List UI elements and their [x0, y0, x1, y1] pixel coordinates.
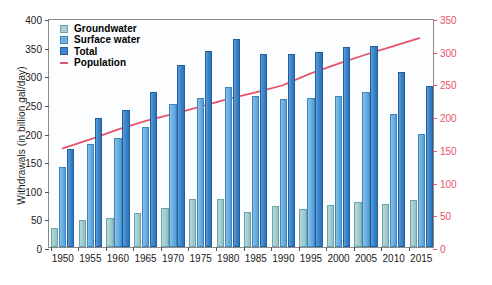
bar-total — [426, 86, 433, 247]
bar-surface-water — [335, 96, 342, 247]
bar-groundwater — [79, 220, 86, 247]
y-tick-label-left: 100 — [25, 186, 42, 197]
x-tick — [354, 247, 355, 251]
total-swatch-icon — [60, 47, 68, 55]
y-tick-left — [45, 192, 49, 193]
bar-groundwater — [327, 205, 334, 247]
bar-groundwater — [244, 212, 251, 247]
y-tick-left — [45, 20, 49, 21]
y-tick-label-left: 50 — [31, 215, 42, 226]
y-tick-label-left: 300 — [25, 72, 42, 83]
x-tick — [381, 247, 382, 251]
y-tick-label-left: 150 — [25, 158, 42, 169]
bar-total — [67, 149, 74, 247]
bar-total — [177, 65, 184, 247]
x-tick-label: 1995 — [300, 253, 322, 264]
y-tick-left — [45, 106, 49, 107]
y-tick-label-right: 200 — [440, 113, 457, 124]
x-tick — [133, 247, 134, 251]
bar-total — [343, 47, 350, 247]
x-tick — [161, 247, 162, 251]
bar-total — [398, 72, 405, 247]
y-tick-label-left: 0 — [36, 244, 42, 255]
x-tick-label: 1965 — [134, 253, 156, 264]
legend-item-population: Population — [60, 57, 140, 68]
y-tick-label-right: 150 — [440, 145, 457, 156]
y-tick-label-left: 400 — [25, 15, 42, 26]
x-tick-label: 1955 — [79, 253, 101, 264]
population-line-icon — [60, 62, 68, 64]
bar-groundwater — [272, 206, 279, 247]
x-tick — [106, 247, 107, 251]
y-tick-label-left: 250 — [25, 100, 42, 111]
legend-label-surface-water: Surface water — [74, 34, 140, 45]
bar-surface-water — [225, 87, 232, 247]
y-tick-label-right: 50 — [440, 211, 451, 222]
y-tick-left — [45, 249, 49, 250]
chart-container: Withdrawals (in billion gal/day) Populat… — [0, 0, 492, 285]
y-tick-right — [433, 249, 437, 250]
y-tick-label-left: 200 — [25, 129, 42, 140]
legend-item-surface-water: Surface water — [60, 34, 140, 45]
groundwater-swatch-icon — [60, 25, 68, 33]
x-tick — [51, 247, 52, 251]
y-tick-label-right: 350 — [440, 15, 457, 26]
bar-surface-water — [307, 98, 314, 247]
x-tick-label: 1980 — [217, 253, 239, 264]
bar-total — [205, 51, 212, 247]
bar-total — [95, 118, 102, 247]
x-tick — [78, 247, 79, 251]
bar-groundwater — [382, 204, 389, 247]
bar-surface-water — [280, 99, 287, 247]
y-tick-label-right: 250 — [440, 80, 457, 91]
bar-surface-water — [59, 167, 66, 247]
bar-surface-water — [252, 96, 259, 247]
x-tick-label: 1950 — [52, 253, 74, 264]
bar-groundwater — [217, 199, 224, 247]
y-tick-left — [45, 220, 49, 221]
bar-surface-water — [114, 138, 121, 247]
y-tick-left — [45, 49, 49, 50]
y-tick-right — [433, 118, 437, 119]
y-tick-right — [433, 20, 437, 21]
surface-water-swatch-icon — [60, 36, 68, 44]
y-tick-label-left: 350 — [25, 43, 42, 54]
y-tick-left — [45, 135, 49, 136]
x-tick-label: 1975 — [190, 253, 212, 264]
bar-groundwater — [161, 208, 168, 247]
x-tick-label: 1990 — [272, 253, 294, 264]
x-tick-label: 2000 — [327, 253, 349, 264]
y-tick-label-right: 300 — [440, 47, 457, 58]
bar-total — [315, 52, 322, 247]
bar-surface-water — [362, 92, 369, 247]
x-tick — [299, 247, 300, 251]
x-tick — [409, 247, 410, 251]
x-tick-label: 2005 — [355, 253, 377, 264]
bar-groundwater — [134, 213, 141, 247]
x-tick-label: 2015 — [410, 253, 432, 264]
bar-total — [260, 54, 267, 248]
bar-total — [288, 54, 295, 248]
bar-total — [233, 39, 240, 247]
y-tick-label-right: 100 — [440, 178, 457, 189]
bar-surface-water — [418, 134, 425, 247]
bar-total — [150, 92, 157, 247]
bar-surface-water — [390, 114, 397, 247]
legend-label-population: Population — [74, 57, 126, 68]
x-tick — [326, 247, 327, 251]
y-tick-label-right: 0 — [440, 244, 446, 255]
x-tick-label: 2010 — [383, 253, 405, 264]
bar-groundwater — [410, 200, 417, 247]
y-tick-right — [433, 53, 437, 54]
bar-groundwater — [106, 218, 113, 247]
x-tick — [244, 247, 245, 251]
legend-item-groundwater: Groundwater — [60, 23, 140, 34]
bar-groundwater — [354, 202, 361, 247]
legend-label-total: Total — [74, 46, 97, 57]
legend-item-total: Total — [60, 46, 140, 57]
x-tick-label: 1960 — [107, 253, 129, 264]
bar-surface-water — [197, 98, 204, 247]
x-tick — [271, 247, 272, 251]
y-tick-right — [433, 216, 437, 217]
y-tick-right — [433, 85, 437, 86]
